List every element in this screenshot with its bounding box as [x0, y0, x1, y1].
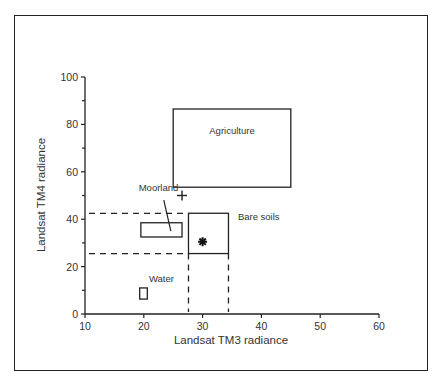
y-tick-label: 80	[66, 118, 78, 130]
x-tick-label: 50	[314, 320, 326, 332]
water-region	[140, 288, 148, 299]
x-tick-label: 40	[256, 320, 268, 332]
pixel-points	[177, 191, 207, 247]
y-tick-label: 60	[66, 166, 78, 178]
y-axis-label: Landsat TM4 radiance	[35, 138, 47, 252]
moorland-label: Moorland	[139, 182, 179, 193]
y-tick-label: 40	[66, 213, 78, 225]
asterisk-marker-icon	[198, 237, 207, 246]
x-tick-label: 20	[138, 320, 150, 332]
moorland-leader-line	[164, 200, 171, 231]
moorland-region	[141, 223, 182, 237]
y-tick-label: 100	[60, 71, 78, 83]
x-tick-label: 30	[197, 320, 209, 332]
agriculture-label: Agriculture	[209, 125, 254, 136]
y-tick-label: 20	[66, 261, 78, 273]
dashed-guides	[89, 213, 228, 312]
water-label: Water	[149, 273, 174, 284]
bare-soils-label: Bare soils	[238, 211, 280, 222]
bare-soils-region	[188, 213, 228, 253]
class-regions: AgricultureMoorlandBare soilsWater	[139, 109, 291, 299]
x-tick-label: 60	[373, 320, 385, 332]
x-axis-label: Landsat TM3 radiance	[174, 334, 288, 346]
x-tick-label: 10	[79, 320, 91, 332]
axes: 102030405060020406080100	[60, 71, 385, 332]
y-tick-label: 0	[72, 308, 78, 320]
agriculture-region	[173, 109, 291, 187]
plus-marker-icon	[177, 191, 187, 201]
feature-space-chart: 102030405060020406080100 AgricultureMoor…	[0, 0, 442, 387]
